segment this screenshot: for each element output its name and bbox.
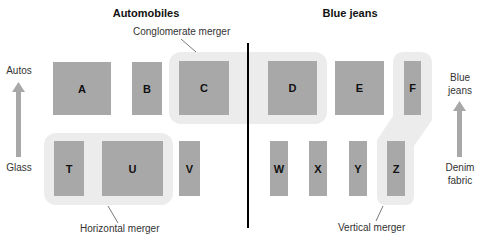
blue-jeans-label-line1: Blue xyxy=(443,71,477,84)
right-up-arrow-icon xyxy=(453,101,466,157)
blue-jeans-label: Blue jeans xyxy=(443,71,477,97)
horizontal-pointer xyxy=(108,206,118,223)
diagram-lines xyxy=(0,0,483,240)
blue-jeans-header: Blue jeans xyxy=(318,7,382,19)
vertical-pointer xyxy=(376,206,383,221)
vertical-merger-label: Vertical merger xyxy=(338,222,405,233)
denim-fabric-label-line1: Denim xyxy=(443,161,477,174)
horizontal-merger-label: Horizontal merger xyxy=(80,223,159,234)
denim-fabric-label-line2: fabric xyxy=(443,174,477,187)
denim-fabric-label: Denim fabric xyxy=(443,161,477,187)
glass-label: Glass xyxy=(3,161,35,174)
autos-label: Autos xyxy=(3,64,35,77)
automobiles-header: Automobiles xyxy=(110,7,182,19)
conglomerate-merger-label: Conglomerate merger xyxy=(133,26,230,37)
conglomerate-pointer xyxy=(181,39,196,52)
left-up-arrow-icon xyxy=(12,82,25,157)
blue-jeans-label-line2: jeans xyxy=(443,84,477,97)
